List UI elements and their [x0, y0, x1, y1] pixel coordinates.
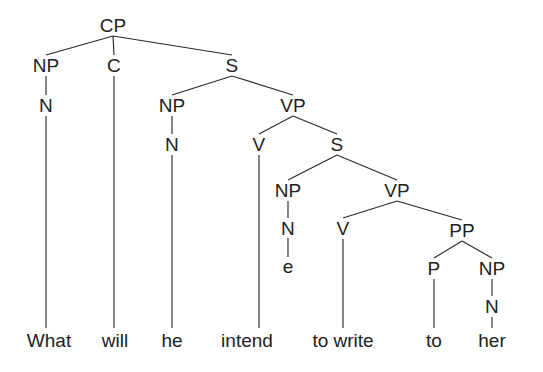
- tree-node-p: P: [428, 259, 441, 278]
- tree-edges-layer: [0, 0, 543, 372]
- tree-node-c: C: [107, 56, 121, 75]
- tree-leaf-w-intend: intend: [221, 331, 273, 350]
- tree-node-s1: S: [226, 56, 239, 75]
- tree-node-n1: N: [39, 96, 53, 115]
- tree-leaf-w-her: her: [478, 331, 505, 350]
- tree-edge-s2-to-np3: [288, 155, 337, 180]
- tree-edge-cp-to-s1: [113, 36, 232, 55]
- tree-node-s2: S: [331, 135, 344, 154]
- tree-node-vp1: VP: [280, 96, 306, 115]
- tree-node-np2: NP: [159, 96, 186, 115]
- tree-leaf-w-to: to: [426, 331, 442, 350]
- tree-edge-vp2-to-v2: [343, 201, 397, 218]
- tree-edge-pp-to-p: [434, 241, 462, 258]
- tree-edge-cp-to-c: [113, 36, 114, 55]
- tree-node-pp: PP: [449, 221, 475, 240]
- tree-node-np3: NP: [275, 181, 302, 200]
- tree-leaf-w-what: What: [27, 331, 71, 350]
- tree-edge-vp2-to-pp: [397, 201, 462, 220]
- tree-node-n2: N: [165, 135, 179, 154]
- syntax-tree-figure: CPNPCSNNPVPNVSNPVPNVPPePNPN Whatwillhein…: [0, 0, 543, 372]
- tree-node-np4: NP: [479, 259, 506, 278]
- tree-node-np1: NP: [33, 56, 60, 75]
- tree-node-trace: e: [283, 257, 294, 276]
- tree-node-v2: V: [337, 219, 350, 238]
- tree-edge-vp1-to-s2: [293, 116, 337, 134]
- tree-leaf-w-towrite: to write: [312, 331, 373, 350]
- tree-leaf-w-will: will: [102, 331, 128, 350]
- tree-edge-s1-to-vp1: [232, 76, 293, 95]
- tree-edge-s2-to-vp2: [337, 155, 397, 180]
- tree-leaf-w-he: he: [161, 331, 182, 350]
- tree-node-n4: N: [485, 297, 499, 316]
- tree-edge-cp-to-np1: [46, 36, 113, 55]
- tree-edge-pp-to-np4: [462, 241, 492, 258]
- tree-node-vp2: VP: [384, 181, 410, 200]
- tree-node-v1: V: [253, 135, 266, 154]
- tree-edge-vp1-to-v1: [259, 116, 293, 134]
- tree-node-n3: N: [281, 219, 295, 238]
- tree-node-cp: CP: [100, 16, 127, 35]
- tree-edge-s1-to-np2: [172, 76, 232, 95]
